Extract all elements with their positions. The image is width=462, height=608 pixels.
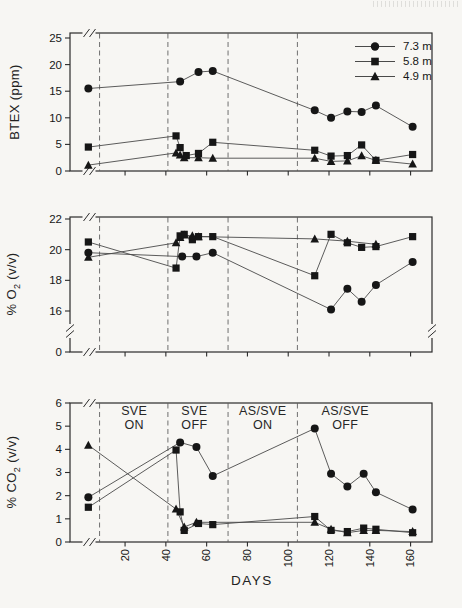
series-markers-5.8m bbox=[85, 132, 416, 164]
y-tick-label: 2 bbox=[56, 490, 62, 502]
legend-label: 5.8 m bbox=[403, 55, 432, 67]
x-ticks: 20406080100120140160 bbox=[119, 542, 417, 567]
series-markers-4.9m bbox=[84, 231, 380, 261]
y-tick-label: 4 bbox=[56, 443, 63, 455]
series-line-5.8m bbox=[88, 450, 412, 533]
x-tick-label: 120 bbox=[323, 549, 335, 567]
legend-item-5-8m: 5.8 m bbox=[352, 54, 432, 68]
square-marker-icon bbox=[352, 55, 398, 68]
panel-o2: 222018160 bbox=[49, 213, 436, 358]
figure-canvas: 2520151050222018160204060801001201401606… bbox=[0, 0, 462, 608]
y-axis-label-co2: % CO2 (v/v) bbox=[3, 407, 21, 537]
y-axis-label-btex: BTEX (ppm) bbox=[6, 37, 24, 167]
x-tick-label: 140 bbox=[364, 549, 376, 567]
y-tick-label: 0 bbox=[56, 536, 62, 548]
legend-item-7-3m: 7.3 m bbox=[352, 39, 432, 53]
y-tick-label: 20 bbox=[49, 244, 62, 256]
x-axis-label: DAYS bbox=[192, 573, 312, 588]
y-ticks: 2520151050 bbox=[49, 32, 70, 177]
y-tick-label: 15 bbox=[49, 85, 62, 97]
y-tick-label: 22 bbox=[49, 213, 62, 225]
x-tick-label: 60 bbox=[200, 549, 212, 561]
x-tick-label: 100 bbox=[282, 549, 294, 567]
x-tick-label: 160 bbox=[404, 549, 416, 567]
y-tick-label: 1 bbox=[56, 513, 62, 525]
y-tick-label: 20 bbox=[49, 59, 62, 71]
legend: 7.3 m 5.8 m 4.9 m bbox=[352, 39, 432, 83]
y-tick-label: 16 bbox=[49, 305, 62, 317]
y-tick-label: 18 bbox=[49, 274, 62, 286]
y-tick-label: 3 bbox=[56, 466, 62, 478]
series-markers-5.8m bbox=[85, 446, 416, 536]
y-tick-label: 0 bbox=[56, 165, 62, 177]
x-tick-label: 80 bbox=[241, 549, 253, 561]
y-tick-label: 5 bbox=[56, 138, 62, 150]
y-tick-label: 10 bbox=[49, 112, 62, 124]
x-ticks bbox=[125, 352, 411, 357]
series-line-7.3m bbox=[88, 429, 412, 510]
series-line-4.9m bbox=[88, 235, 376, 257]
y-tick-label: 6 bbox=[56, 397, 62, 409]
phase-label-assve-off: AS/SVEOFF bbox=[290, 405, 400, 432]
series-markers-7.3m bbox=[84, 424, 416, 513]
x-ticks bbox=[125, 171, 411, 176]
y-tick-label: 5 bbox=[56, 420, 62, 432]
triangle-marker-icon bbox=[352, 70, 398, 83]
legend-item-4-9m: 4.9 m bbox=[352, 69, 432, 83]
x-tick-label: 20 bbox=[119, 549, 131, 561]
y-tick-label: 0 bbox=[56, 346, 62, 358]
figure-page: 2520151050222018160204060801001201401606… bbox=[0, 0, 462, 608]
y-ticks: 6543210 bbox=[56, 397, 70, 548]
legend-label: 7.3 m bbox=[403, 40, 432, 52]
y-axis-label-o2: % O2 (v/v) bbox=[3, 219, 21, 349]
series-markers-7.3m bbox=[84, 249, 416, 314]
y-tick-label: 25 bbox=[49, 32, 62, 44]
x-tick-label: 40 bbox=[160, 549, 172, 561]
legend-label: 4.9 m bbox=[403, 70, 432, 82]
circle-marker-icon bbox=[352, 40, 398, 53]
